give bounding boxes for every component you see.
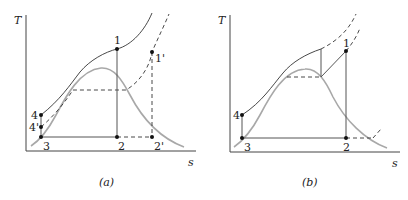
state-point-4-b	[240, 113, 244, 117]
saturation-dome-a	[31, 68, 184, 147]
isobar-high-continuation-b	[321, 14, 356, 49]
point-label-4-b: 4	[233, 109, 240, 122]
state-point-2-b	[344, 136, 348, 140]
ts-diagram-figure: T s 1 1' 2 2' 3 4 4' (a) T s	[0, 0, 408, 200]
state-point-3-a	[39, 135, 43, 139]
point-label-1-a: 1	[114, 34, 121, 47]
state-point-2prime-a	[150, 135, 154, 139]
caption-a: (a)	[99, 176, 114, 189]
saturation-dome-b	[234, 69, 387, 148]
state-point-3-b	[240, 136, 244, 140]
reheat-line	[321, 51, 346, 77]
panel-b: T s 1 2 3 4 (b)	[218, 14, 400, 189]
isobar-high-a	[41, 13, 152, 115]
state-point-2-a	[115, 135, 119, 139]
state-point-1-a	[115, 47, 119, 51]
state-point-4prime-a	[39, 125, 43, 129]
point-label-1-b: 1	[343, 37, 350, 50]
axes-a	[26, 15, 196, 151]
state-point-1prime-a	[150, 50, 154, 54]
caption-b: (b)	[302, 176, 318, 189]
isobar-low-a	[41, 14, 169, 127]
y-axis-label-a: T	[14, 14, 23, 27]
point-label-1prime-a: 1'	[155, 52, 165, 65]
y-axis-label-b: T	[218, 14, 227, 27]
axes-b	[230, 15, 400, 152]
point-label-2-b: 2	[343, 141, 350, 154]
point-label-2prime-a: 2'	[154, 140, 164, 153]
point-label-3-a: 3	[43, 140, 50, 153]
point-label-4prime-a: 4'	[29, 121, 39, 134]
point-label-3-b: 3	[244, 141, 251, 154]
x-axis-label-a: s	[188, 156, 194, 169]
panel-a: T s 1 1' 2 2' 3 4 4' (a)	[14, 13, 196, 189]
x-axis-label-b: s	[392, 157, 398, 170]
state-point-4-a	[39, 113, 43, 117]
isobar-low-superheat-b	[373, 129, 381, 138]
point-label-2-a: 2	[118, 140, 125, 153]
